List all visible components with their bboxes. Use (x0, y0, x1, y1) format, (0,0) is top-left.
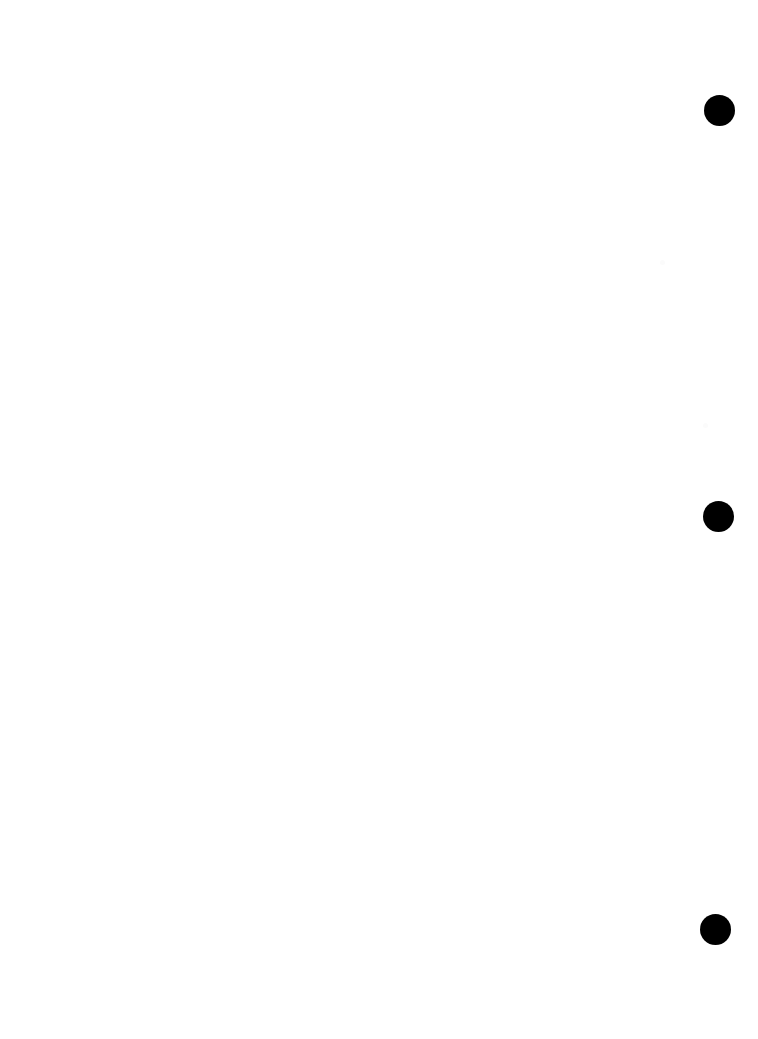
faint-speck (703, 423, 708, 428)
document-page (0, 0, 758, 1039)
bullet-marker-icon (703, 501, 734, 532)
bullet-marker-icon (704, 95, 735, 126)
bullet-marker-icon (700, 914, 731, 945)
faint-speck (660, 260, 665, 265)
